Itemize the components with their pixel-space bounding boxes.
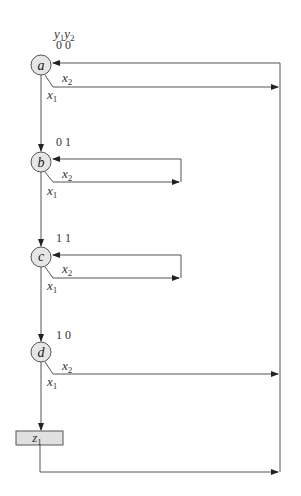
label-x1-a: x1 (46, 87, 57, 104)
branch-x2-a (45, 75, 278, 87)
state-d-label: d (38, 345, 46, 360)
output-z1: z1 (16, 430, 278, 472)
label-x1-d: x1 (46, 374, 57, 391)
state-d-code: 1 0 (56, 328, 71, 342)
state-a-code: 0 0 (56, 38, 71, 52)
state-d: 1 0 d x2 x1 (31, 328, 278, 430)
state-b: 0 1 b x2 x1 (31, 135, 181, 246)
state-c-code: 1 1 (56, 231, 71, 245)
asm-diagram: y1y2 0 0 a x2 x1 0 1 b x2 x1 1 1 c x2 x1 (0, 0, 301, 496)
state-a-label: a (38, 58, 45, 73)
state-b-label: b (38, 155, 45, 170)
label-x2-d: x2 (61, 358, 72, 375)
state-b-code: 0 1 (56, 135, 71, 149)
branch-x2-d (45, 362, 278, 374)
label-x1-b: x1 (46, 183, 57, 200)
label-x2-a: x2 (61, 70, 72, 87)
state-c-label: c (38, 249, 45, 264)
edge-z1-return (40, 445, 278, 472)
state-c: 1 1 c x2 x1 (31, 231, 181, 341)
label-x2-c: x2 (61, 261, 72, 278)
label-x1-c: x1 (46, 278, 57, 295)
label-x2-b: x2 (61, 166, 72, 183)
